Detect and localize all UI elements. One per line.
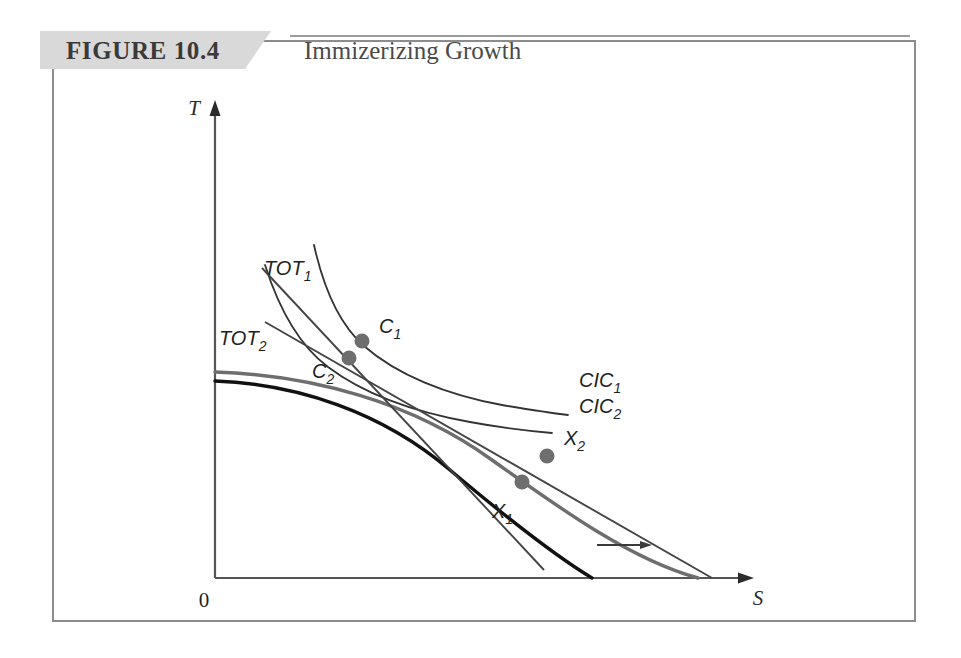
- tot2-label-sub: 2: [258, 338, 267, 354]
- figure-number: FIGURE 10.4: [66, 37, 220, 65]
- origin-label: 0: [199, 588, 210, 612]
- cic1-curve: [314, 245, 568, 415]
- svg-text:CIC1: CIC1: [579, 369, 621, 396]
- svg-text:CIC2: CIC2: [579, 395, 621, 422]
- figure-banner-slant: [245, 31, 271, 69]
- label-cic1: CIC1: [579, 369, 621, 396]
- y-axis-arrowhead: [210, 100, 221, 116]
- x2-label-text: X: [563, 427, 578, 449]
- label-x1: X1: [491, 500, 513, 527]
- svg-text:C1: C1: [379, 315, 401, 342]
- point-c1-marker: [355, 334, 370, 349]
- y-axis-label: T: [188, 96, 201, 120]
- label-tot2: TOT2: [219, 327, 267, 354]
- svg-text:TOT2: TOT2: [219, 327, 267, 354]
- point-x1-marker: [515, 475, 530, 490]
- label-x2: X2: [563, 427, 585, 454]
- axes-group: [210, 100, 755, 584]
- x-axis-label: S: [753, 586, 764, 610]
- figure-page: FIGURE 10.4 Immizerizing Growth: [0, 0, 961, 658]
- c2-label-sub: 2: [325, 371, 334, 387]
- c1-label-sub: 1: [393, 326, 401, 342]
- tot1-label-text: TOT: [264, 257, 305, 279]
- figure-title: Immizerizing Growth: [304, 37, 521, 65]
- tot2-label-text: TOT: [219, 327, 260, 349]
- svg-text:TOT1: TOT1: [264, 257, 311, 284]
- point-x2-marker: [540, 449, 555, 464]
- point-c2-marker: [342, 351, 357, 366]
- label-tot1: TOT1: [264, 257, 311, 284]
- cic1-label-text: CIC: [579, 369, 614, 391]
- x1-label-sub: 1: [505, 511, 513, 527]
- tot2-line: [265, 322, 712, 578]
- cic2-label-sub: 2: [612, 406, 621, 422]
- svg-text:X1: X1: [491, 500, 513, 527]
- cic2-curve: [265, 265, 552, 433]
- tot1-line: [262, 268, 544, 570]
- chart-canvas: T S 0 TOT1 TOT2 CIC1 CIC2 C1: [52, 40, 916, 622]
- x2-label-sub: 2: [576, 438, 585, 454]
- c1-label-text: C: [379, 315, 394, 337]
- x-axis-arrowhead: [738, 573, 754, 584]
- x1-label-text: X: [491, 500, 506, 522]
- label-c1: C1: [379, 315, 401, 342]
- c2-label-text: C: [312, 360, 327, 382]
- tot1-label-sub: 1: [304, 268, 312, 284]
- cic2-label-text: CIC: [579, 395, 614, 417]
- svg-text:X2: X2: [563, 427, 585, 454]
- cic1-label-sub: 1: [613, 380, 621, 396]
- label-cic2: CIC2: [579, 395, 621, 422]
